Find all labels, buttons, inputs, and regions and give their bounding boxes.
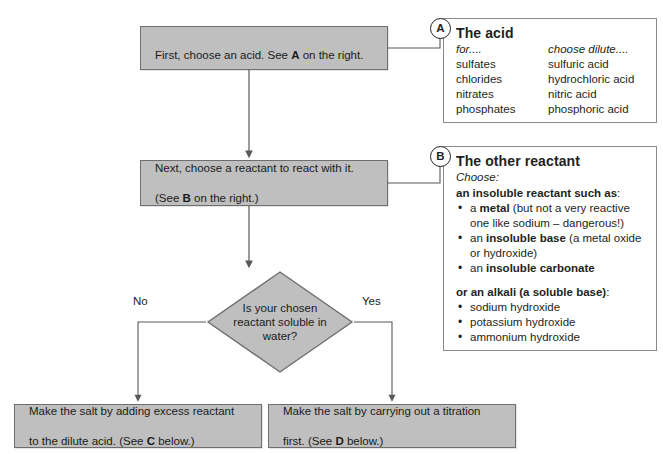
- acid-row-3-acid: phosphoric acid: [548, 102, 646, 117]
- panel-b-group2-heading: or an alkali (a soluble base):: [456, 285, 646, 300]
- top-caption-strip: [54, 0, 474, 8]
- node-solubility-decision-label: Is your chosen reactant soluble in water…: [206, 270, 354, 374]
- node-choose-reactant[interactable]: Next, choose a reactant to react with it…: [140, 160, 388, 206]
- list-item: a metal (but not a very reactive one lik…: [456, 201, 646, 231]
- flowchart-canvas: First, choose an acid. See A on the righ…: [0, 0, 663, 454]
- acid-row-1-anion: chlorides: [456, 72, 548, 87]
- panel-b-group1-list: a metal (but not a very reactive one lik…: [456, 201, 646, 276]
- panel-b-group1-heading: an insoluble reactant such as:: [456, 186, 646, 201]
- panel-b-choose-label: Choose:: [456, 170, 646, 185]
- list-item: potassium hydroxide: [456, 315, 646, 330]
- node-excess-reactant-method[interactable]: Make the salt by adding excess reactant …: [14, 404, 262, 448]
- panel-a-badge: A: [430, 18, 451, 39]
- table-row: phosphates phosphoric acid: [456, 102, 646, 117]
- panel-the-other-reactant: B The other reactant Choose: an insolubl…: [443, 146, 657, 351]
- branch-label-no: No: [133, 295, 148, 307]
- node-choose-reactant-label: Next, choose a reactant to react with it…: [141, 146, 368, 221]
- node-choose-acid[interactable]: First, choose an acid. See A on the righ…: [140, 26, 388, 70]
- node-excess-reactant-label: Make the salt by adding excess reactant …: [15, 389, 248, 454]
- connector-acid-to-panel-a: [388, 37, 440, 48]
- panel-b-group2-list: sodium hydroxide potassium hydroxide amm…: [456, 300, 646, 345]
- list-item: an insoluble carbonate: [456, 261, 646, 276]
- list-item: an insoluble base (a metal oxide or hydr…: [456, 231, 646, 261]
- node-titration-method[interactable]: Make the salt by carrying out a titratio…: [268, 404, 516, 448]
- acid-table-col-header-for: for....: [456, 42, 548, 57]
- acid-table-header-row: for.... choose dilute....: [456, 42, 646, 57]
- panel-the-acid: A The acid for.... choose dilute.... sul…: [443, 18, 657, 123]
- table-row: sulfates sulfuric acid: [456, 57, 646, 72]
- acid-row-2-acid: nitric acid: [548, 87, 646, 102]
- acid-row-3-anion: phosphates: [456, 102, 548, 117]
- list-item: ammonium hydroxide: [456, 330, 646, 345]
- table-row: chlorides hydrochloric acid: [456, 72, 646, 87]
- panel-b-title: The other reactant: [456, 153, 646, 169]
- acid-row-0-anion: sulfates: [456, 57, 548, 72]
- acid-row-0-acid: sulfuric acid: [548, 57, 646, 72]
- acid-table: for.... choose dilute.... sulfates sulfu…: [456, 42, 646, 117]
- acid-table-col-header-choose: choose dilute....: [548, 42, 646, 57]
- list-item: sodium hydroxide: [456, 300, 646, 315]
- panel-b-badge: B: [430, 146, 451, 167]
- branch-label-yes: Yes: [362, 295, 381, 307]
- table-row: nitrates nitric acid: [456, 87, 646, 102]
- node-solubility-decision[interactable]: Is your chosen reactant soluble in water…: [206, 270, 354, 374]
- connector-reactant-to-panel-b: [388, 165, 440, 183]
- node-titration-label: Make the salt by carrying out a titratio…: [269, 389, 495, 454]
- connector-no-branch: [138, 322, 206, 398]
- acid-row-2-anion: nitrates: [456, 87, 548, 102]
- node-choose-acid-label: First, choose an acid. See A on the righ…: [141, 33, 377, 63]
- acid-row-1-acid: hydrochloric acid: [548, 72, 646, 87]
- connector-yes-branch: [354, 322, 392, 398]
- panel-a-title: The acid: [456, 25, 646, 41]
